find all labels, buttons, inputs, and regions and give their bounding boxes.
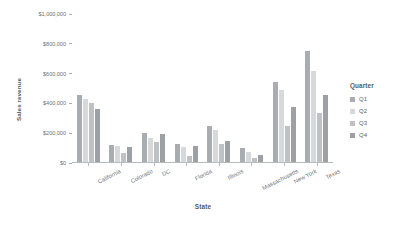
x-axis-tick-label: DC (160, 168, 170, 177)
legend-entry-label: Q1 (359, 96, 367, 102)
x-axis-tick-label: Illinois (227, 168, 244, 181)
legend-entry[interactable]: Q3 (350, 117, 402, 129)
legend-title: Quarter (350, 82, 402, 89)
x-axis-tick-label: Florida (194, 168, 213, 182)
legend: Quarter Q1Q2Q3Q4 (350, 82, 402, 141)
x-axis-tick-label: Texas (324, 168, 340, 180)
x-axis-tick-label: Colorado (130, 168, 154, 184)
x-axis-title: State (0, 203, 406, 210)
x-axis-tick-label: California (97, 168, 122, 185)
legend-swatch-icon (350, 133, 355, 138)
legend-entry[interactable]: Q2 (350, 105, 402, 117)
legend-entry[interactable]: Q1 (350, 93, 402, 105)
legend-entry[interactable]: Q4 (350, 129, 402, 141)
legend-entries: Q1Q2Q3Q4 (350, 93, 402, 141)
legend-swatch-icon (350, 109, 355, 114)
legend-entry-label: Q3 (359, 120, 367, 126)
legend-entry-label: Q2 (359, 108, 367, 114)
x-axis-labels: CaliforniaColoradoDCFloridaIllinoisMassa… (0, 0, 406, 229)
bar-chart: Sales revenue $0$200,000$400,000$600,000… (0, 0, 406, 229)
legend-swatch-icon (350, 121, 355, 126)
legend-entry-label: Q4 (359, 132, 367, 138)
legend-swatch-icon (350, 97, 355, 102)
